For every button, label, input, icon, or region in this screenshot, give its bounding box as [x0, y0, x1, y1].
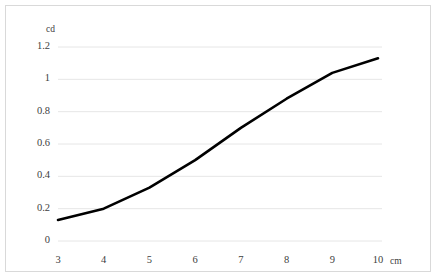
x-tick-label: 8 — [267, 255, 307, 266]
y-tick-label: 0.6 — [12, 138, 50, 149]
x-tick-label: 5 — [129, 255, 169, 266]
chart-canvas — [6, 6, 432, 273]
y-tick-label: 0.4 — [12, 170, 50, 181]
y-tick-label: 0 — [12, 235, 50, 246]
data-line-group — [58, 58, 378, 220]
x-tick-label: 9 — [312, 255, 352, 266]
y-tick-label: 1 — [12, 73, 50, 84]
chart-container: 1.210.80.60.40.20 345678910 cd cm — [5, 5, 431, 272]
x-tick-label: 4 — [84, 255, 124, 266]
y-tick-label: 0.2 — [12, 203, 50, 214]
plot-area: 1.210.80.60.40.20 345678910 cd cm — [6, 6, 430, 271]
x-tick-label: 6 — [175, 255, 215, 266]
x-axis-title: cm — [390, 257, 402, 267]
x-tick-label: 3 — [38, 255, 78, 266]
y-tick-label: 0.8 — [12, 106, 50, 117]
line-series — [58, 58, 378, 220]
x-tick-label: 7 — [221, 255, 261, 266]
y-tick-label: 1.2 — [12, 41, 50, 52]
y-axis-title: cd — [46, 25, 55, 35]
